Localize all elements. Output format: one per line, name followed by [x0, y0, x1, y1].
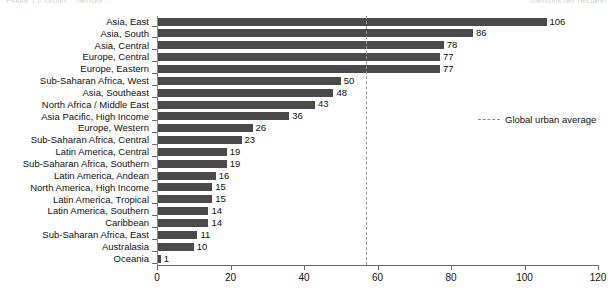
bar	[157, 160, 227, 168]
bar-row: Sub-Saharan Africa, Central23	[157, 135, 598, 147]
chart-legend: Global urban average	[478, 114, 596, 125]
bar-row: Caribbean14	[157, 217, 598, 229]
bar-value-label: 14	[211, 205, 222, 216]
bar-value-label: 78	[447, 39, 458, 50]
category-label: Europe, Eastern	[0, 63, 157, 74]
category-label: Latin America, Central	[0, 146, 157, 157]
category-label: Latin America, Andean	[0, 170, 157, 181]
x-axis-tick	[525, 265, 526, 270]
category-label: Australasia	[0, 241, 157, 252]
bar-value-label: 48	[336, 87, 347, 98]
bar-value-label: 1	[164, 253, 169, 264]
bar-row: Sub-Saharan Africa, East11	[157, 229, 598, 241]
bar-value-label: 106	[550, 16, 566, 27]
category-label: Europe, Western	[0, 122, 157, 133]
x-axis-tick-label: 0	[154, 272, 160, 284]
bar-value-label: 11	[200, 229, 210, 240]
bar	[157, 231, 197, 239]
x-axis-tick	[451, 265, 452, 270]
category-label: Sub-Saharan Africa, Southern	[0, 158, 157, 169]
bar-value-label: 10	[197, 241, 208, 252]
bar-row: Europe, Eastern77	[157, 63, 598, 75]
x-axis-tick-label: 20	[225, 272, 236, 284]
category-label: Europe, Central	[0, 51, 157, 62]
x-axis-tick	[231, 265, 232, 270]
bar	[157, 18, 547, 26]
bar	[157, 195, 212, 203]
bar-value-label: 19	[230, 146, 241, 157]
bar	[157, 89, 333, 97]
bar-row: Latin America, Central19	[157, 146, 598, 158]
bar-value-label: 23	[245, 134, 256, 145]
bar	[157, 65, 440, 73]
x-axis-tick	[378, 265, 379, 270]
bar-value-label: 15	[215, 193, 226, 204]
bar	[157, 136, 242, 144]
plot-area: Asia, East106Asia, South86Asia, Central7…	[157, 16, 598, 265]
x-axis-tick-label: 60	[372, 272, 383, 284]
bar-row: Sub-Saharan Africa, West50	[157, 75, 598, 87]
bar-row: Sub-Saharan Africa, Southern19	[157, 158, 598, 170]
bar-row: Asia, Southeast48	[157, 87, 598, 99]
bar	[157, 219, 208, 227]
bar	[157, 53, 440, 61]
bar-row: Asia, East106	[157, 16, 598, 28]
category-label: Asia Pacific, High Income	[0, 111, 157, 122]
x-axis-tick-label: 100	[516, 272, 533, 284]
x-axis-tick-label: 120	[590, 272, 607, 284]
category-label: Asia, South	[0, 28, 157, 39]
bar-value-label: 43	[318, 98, 329, 109]
bar-value-label: 50	[344, 75, 355, 86]
category-label: Sub-Saharan Africa, Central	[0, 134, 157, 145]
bar-chart: Asia, East106Asia, South86Asia, Central7…	[0, 0, 615, 296]
x-axis-tick	[598, 265, 599, 270]
bar	[157, 207, 208, 215]
bar-row: Asia, Central78	[157, 40, 598, 52]
bar	[157, 148, 227, 156]
bar-value-label: 36	[292, 110, 303, 121]
bar-value-label: 86	[476, 27, 487, 38]
category-label: Asia, East	[0, 16, 157, 27]
category-label: Caribbean	[0, 217, 157, 228]
category-label: North Africa / Middle East	[0, 99, 157, 110]
bar	[157, 124, 253, 132]
bar-row: Europe, Central77	[157, 52, 598, 64]
global-urban-average-line	[366, 16, 367, 265]
bar-value-label: 16	[219, 170, 230, 181]
bar-row: North America, High Income15	[157, 182, 598, 194]
bar-row: North Africa / Middle East43	[157, 99, 598, 111]
x-axis-tick	[304, 265, 305, 270]
category-label: North America, High Income	[0, 182, 157, 193]
category-label: Asia, Central	[0, 40, 157, 51]
bar	[157, 29, 473, 37]
category-label: Asia, Southeast	[0, 87, 157, 98]
bar-row: Australasia10	[157, 241, 598, 253]
bar	[157, 172, 216, 180]
x-axis-tick	[157, 265, 158, 270]
dashed-line-icon	[478, 119, 500, 120]
bar-value-label: 77	[443, 63, 454, 74]
category-label: Latin America, Southern	[0, 205, 157, 216]
x-axis-tick-label: 40	[298, 272, 309, 284]
y-axis-line	[157, 16, 158, 265]
bar-row: Latin America, Southern14	[157, 206, 598, 218]
x-axis-tick-label: 80	[445, 272, 456, 284]
legend-label-global-urban-average: Global urban average	[505, 114, 596, 125]
bar-value-label: 14	[211, 217, 222, 228]
bar-value-label: 77	[443, 51, 454, 62]
category-label: Sub-Saharan Africa, East	[0, 229, 157, 240]
bar-row: Oceania1	[157, 253, 598, 265]
bar	[157, 101, 315, 109]
category-label: Sub-Saharan Africa, West	[0, 75, 157, 86]
bar-row: Latin America, Tropical15	[157, 194, 598, 206]
category-label: Latin America, Tropical	[0, 194, 157, 205]
bar	[157, 41, 444, 49]
bar-value-label: 26	[256, 122, 267, 133]
bar-value-label: 19	[230, 158, 241, 169]
bar	[157, 77, 341, 85]
bar-row: Asia, South86	[157, 28, 598, 40]
category-label: Oceania	[0, 253, 157, 264]
bar-row: Latin America, Andean16	[157, 170, 598, 182]
bar-value-label: 15	[215, 181, 226, 192]
bar	[157, 243, 194, 251]
